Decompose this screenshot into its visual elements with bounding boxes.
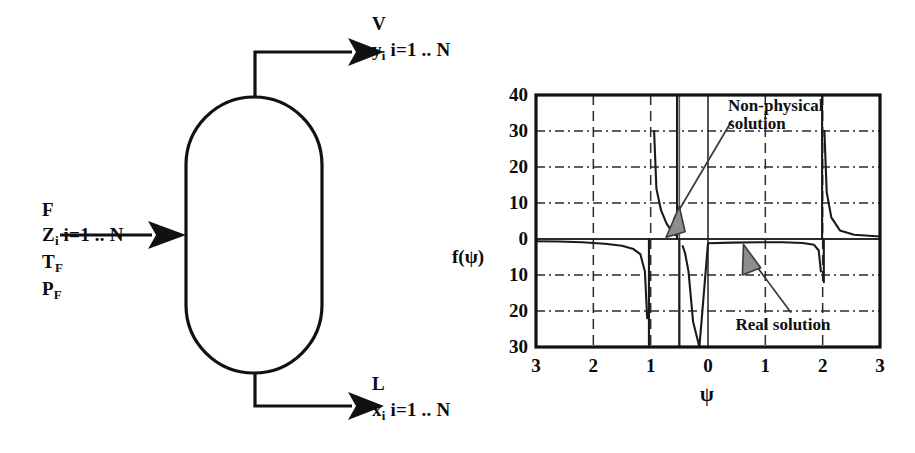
- y-tick-label: 30: [484, 120, 528, 142]
- feed-temperature-symbol: T: [42, 251, 55, 272]
- liquid-stream-label: L: [372, 374, 385, 393]
- x-tick-label: 0: [693, 355, 723, 377]
- vapor-composition-label: yi i=1 .. N: [372, 40, 450, 63]
- feed-pressure-label: PF: [42, 279, 62, 302]
- x-tick-label: 1: [750, 355, 780, 377]
- liquid-composition-range: i=1 .. N: [386, 399, 451, 420]
- x-axis-title: ψ: [700, 383, 714, 406]
- vapor-stream-label: V: [372, 14, 386, 33]
- annotation-arrows: [666, 120, 791, 313]
- vapor-composition-symbol: y: [372, 39, 382, 60]
- feed-stream-label: F: [42, 200, 54, 219]
- x-tick-label: 3: [865, 355, 895, 377]
- real-solution-arrowhead: [742, 244, 760, 275]
- rachford-rice-plot: f(ψ) 4030201001020303210123 ψ Non-physic…: [455, 60, 915, 453]
- curve-branch-3: [824, 131, 880, 237]
- annotation-non-physical-line2: solution: [728, 114, 786, 133]
- vessel-outline: [186, 97, 322, 373]
- feed-pressure-subscript: F: [54, 287, 62, 302]
- annotation-non-physical-line1: Non-physical: [728, 96, 823, 115]
- x-tick-label: 2: [578, 355, 608, 377]
- y-tick-label: 40: [484, 84, 528, 106]
- x-tick-label: 2: [808, 355, 838, 377]
- curve-branch-0: [536, 241, 647, 318]
- liquid-composition-label: xi i=1 .. N: [372, 400, 450, 423]
- y-tick-label: 20: [484, 300, 528, 322]
- annotation-non-physical-solution: Non-physical solution: [728, 97, 868, 134]
- feed-composition-symbol: Z: [42, 224, 55, 245]
- liquid-composition-symbol: x: [372, 399, 382, 420]
- annotation-real-solution: Real solution: [736, 316, 831, 334]
- y-tick-label: 10: [484, 264, 528, 286]
- vapor-composition-range: i=1 .. N: [386, 39, 451, 60]
- annotation-real-line1: Real solution: [736, 315, 831, 334]
- vapor-outlet-line: [255, 52, 352, 97]
- x-tick-label: 1: [636, 355, 666, 377]
- y-tick-label: 20: [484, 156, 528, 178]
- feed-pressure-symbol: P: [42, 278, 54, 299]
- liquid-outlet-line: [255, 373, 352, 406]
- feed-arrowhead: [148, 221, 186, 249]
- feed-temperature-label: TF: [42, 252, 63, 275]
- feed-composition-range: i=1 .. N: [59, 224, 124, 245]
- flash-drum-diagram: F Zi i=1 .. N TF PF V yi i=1 .. N L xi i…: [0, 0, 470, 453]
- y-tick-label: 10: [484, 192, 528, 214]
- curve-branch-1: [654, 131, 676, 235]
- x-tick-label: 3: [521, 355, 551, 377]
- figure-canvas: F Zi i=1 .. N TF PF V yi i=1 .. N L xi i…: [0, 0, 915, 453]
- y-tick-label: 0: [484, 228, 528, 250]
- non-physical-arrowhead: [666, 207, 685, 238]
- feed-temperature-subscript: F: [55, 260, 63, 275]
- feed-composition-label: Zi i=1 .. N: [42, 225, 124, 248]
